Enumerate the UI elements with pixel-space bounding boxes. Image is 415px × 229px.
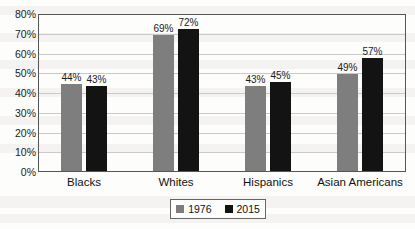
gridline-70 — [39, 34, 405, 35]
y-axis-tick-50: 50% — [2, 68, 36, 78]
legend-item-1976: 1976 — [176, 204, 211, 214]
grouped-bar-chart: 80%70%60%50%40%30%20%10%0% BlacksWhitesH… — [0, 0, 415, 229]
bar-whites-1976 — [153, 35, 174, 171]
legend-item-2015: 2015 — [225, 204, 260, 214]
bar-blacks-1976 — [61, 84, 82, 171]
y-axis-tick-10: 10% — [2, 147, 36, 157]
bar-value-label-whites-2015: 72% — [172, 18, 206, 28]
bar-asian-americans-1976 — [337, 74, 358, 171]
x-axis-label-asian-americans: Asian Americans — [300, 176, 415, 189]
y-axis-tick-40: 40% — [2, 88, 36, 98]
bar-value-label-hispanics-2015: 45% — [264, 71, 298, 81]
legend-swatch-2015 — [225, 205, 233, 213]
y-axis-tick-labels: 80%70%60%50%40%30%20%10%0% — [0, 0, 36, 229]
plot-area — [38, 14, 406, 172]
y-axis-tick-60: 60% — [2, 49, 36, 59]
bar-blacks-2015 — [86, 86, 107, 171]
gridline-60 — [39, 54, 405, 55]
bar-asian-americans-2015 — [362, 58, 383, 171]
legend-label-1976: 1976 — [188, 204, 211, 214]
y-axis-tick-20: 20% — [2, 128, 36, 138]
bar-hispanics-2015 — [270, 82, 291, 171]
y-axis-tick-70: 70% — [2, 29, 36, 39]
y-axis-tick-80: 80% — [2, 9, 36, 19]
y-axis-tick-30: 30% — [2, 108, 36, 118]
legend-swatch-1976 — [176, 205, 184, 213]
bar-value-label-asian-americans-1976: 49% — [331, 63, 365, 73]
legend-label-2015: 2015 — [237, 204, 260, 214]
chart-legend: 19762015 — [170, 199, 266, 219]
bar-hispanics-1976 — [245, 86, 266, 171]
bar-value-label-blacks-2015: 43% — [80, 75, 114, 85]
bar-whites-2015 — [178, 29, 199, 171]
bar-value-label-asian-americans-2015: 57% — [356, 47, 390, 57]
